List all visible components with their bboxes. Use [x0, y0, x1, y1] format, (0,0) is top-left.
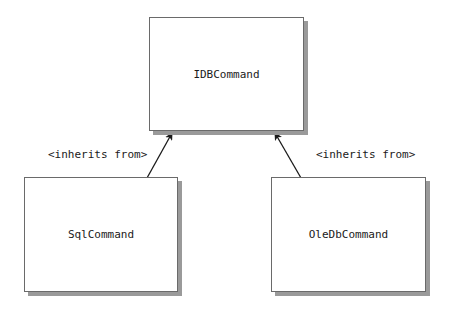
- node-idbcommand: IDBCommand: [149, 17, 304, 131]
- arrow-oledbcommand-to-idbcommand: [275, 133, 301, 178]
- node-label-sqlcommand: SqlCommand: [68, 228, 134, 241]
- arrow-sqlcommand-to-idbcommand: [147, 133, 172, 178]
- node-label-idbcommand: IDBCommand: [193, 68, 259, 81]
- node-sqlcommand: SqlCommand: [24, 177, 178, 292]
- edge-label-right: <inherits from>: [316, 149, 415, 161]
- node-oledbcommand: OleDbCommand: [271, 177, 426, 292]
- node-label-oledbcommand: OleDbCommand: [309, 228, 388, 241]
- edge-label-left: <inherits from>: [48, 149, 147, 161]
